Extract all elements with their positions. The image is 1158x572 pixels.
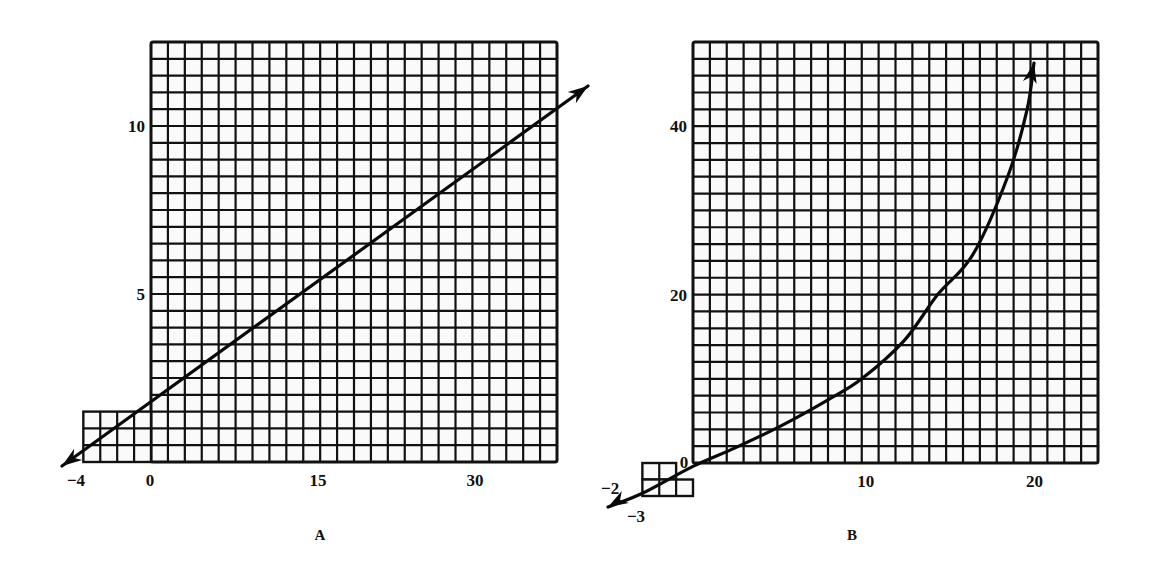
x-tick-label: −4 xyxy=(67,471,86,490)
x-tick-label: −3 xyxy=(627,507,645,526)
grid-extension xyxy=(83,412,151,462)
graph-b: −22040−301020B xyxy=(601,42,1098,543)
grid-main xyxy=(693,42,1098,463)
figure: 510−401530A −22040−301020B xyxy=(0,0,1158,572)
x-tick-label: 15 xyxy=(310,471,327,490)
y-tick-label: −2 xyxy=(601,479,619,498)
x-tick-label: 10 xyxy=(857,472,874,491)
grid-main xyxy=(151,42,557,462)
x-tick-label: 30 xyxy=(467,471,484,490)
panel-label: A xyxy=(315,527,326,543)
panel-label: B xyxy=(847,527,857,543)
y-tick-label: 5 xyxy=(137,285,146,304)
y-tick-label: 40 xyxy=(670,117,687,136)
graph-a: 510−401530A xyxy=(62,42,588,543)
x-tick-label: 0 xyxy=(146,471,155,490)
y-tick-label: 10 xyxy=(128,117,145,136)
x-tick-label: 20 xyxy=(1026,472,1043,491)
y-tick-label: 20 xyxy=(670,286,687,305)
